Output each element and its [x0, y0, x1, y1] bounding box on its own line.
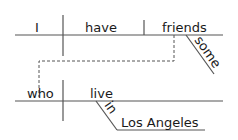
word-subject: I	[35, 20, 39, 35]
word-object: friends	[162, 20, 207, 35]
word-relative-verb: live	[90, 86, 113, 101]
word-verb: have	[85, 20, 117, 35]
word-relative-subject: who	[27, 86, 54, 101]
sentence-diagram: I have friends some who live in Los Ange…	[0, 0, 238, 140]
word-prep-object: Los Angeles	[121, 115, 199, 130]
